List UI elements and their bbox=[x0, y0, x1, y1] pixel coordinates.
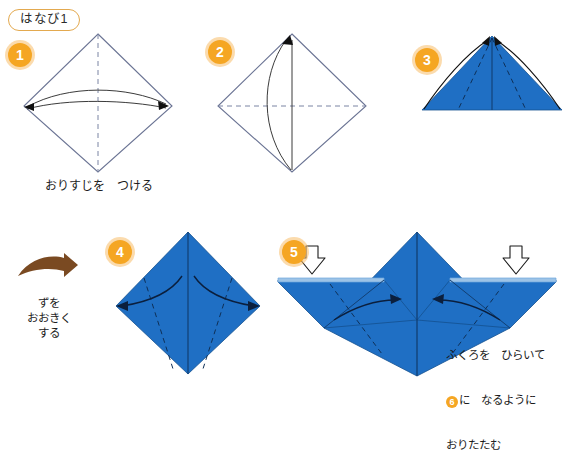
step-badge-1: 1 bbox=[8, 43, 32, 67]
figure-step-2 bbox=[212, 28, 372, 178]
step-badge-2: 2 bbox=[208, 40, 232, 64]
caption-step-5-line-1: ふくろを ひらいて bbox=[446, 348, 545, 363]
enlarge-note-line-2: おおきく bbox=[6, 311, 92, 326]
caption-step-5-line-2: 6に なるように bbox=[446, 393, 545, 408]
figure-step-3 bbox=[418, 32, 565, 142]
push-arrow-icon-right bbox=[503, 246, 529, 274]
step-badge-4: 4 bbox=[108, 240, 132, 264]
pocket-edge-left bbox=[278, 278, 384, 282]
caption-step-5: ふくろを ひらいて 6に なるように おりたたむ bbox=[446, 318, 545, 454]
enlarge-note-line-3: する bbox=[6, 326, 92, 341]
step-badge-3: 3 bbox=[415, 48, 439, 72]
inline-step-badge-6: 6 bbox=[446, 396, 458, 408]
brown-curved-right-arrow bbox=[18, 253, 78, 277]
enlarge-arrow-icon bbox=[16, 252, 80, 290]
figure-step-4 bbox=[112, 228, 264, 378]
caption-step-1: おりすじを つける bbox=[24, 178, 174, 194]
pocket-edge-right bbox=[450, 278, 556, 282]
figure-step-1 bbox=[18, 28, 178, 178]
caption-step-5-line-2-text: に なるように bbox=[459, 394, 536, 406]
fold-arrowhead-left bbox=[482, 36, 490, 46]
step-badge-5: 5 bbox=[282, 240, 306, 264]
enlarge-note: ずを おおきく する bbox=[6, 296, 92, 341]
fold-arrowhead-right bbox=[494, 36, 502, 46]
caption-step-5-line-3: おりたたむ bbox=[446, 438, 545, 453]
enlarge-note-line-1: ずを bbox=[6, 296, 92, 311]
